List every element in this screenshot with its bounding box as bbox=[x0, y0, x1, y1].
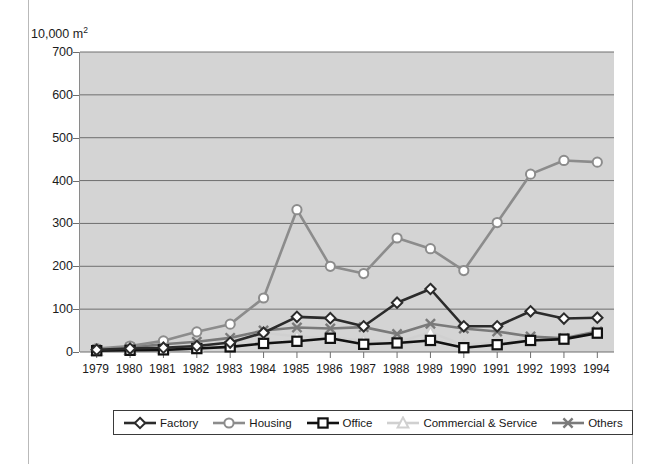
x-tick-marks bbox=[97, 352, 598, 358]
square-marker-icon bbox=[559, 335, 568, 344]
circle-marker-icon bbox=[192, 327, 201, 336]
gridlines bbox=[80, 52, 614, 352]
circle-marker-icon bbox=[526, 170, 535, 179]
y-tick-label: 200 bbox=[29, 259, 73, 273]
y-axis-unit-exponent: 2 bbox=[83, 25, 88, 35]
square-marker-icon bbox=[306, 416, 340, 430]
circle-marker-icon bbox=[292, 205, 301, 214]
legend-item-housing[interactable]: Housing bbox=[212, 416, 291, 430]
legend-label: Factory bbox=[160, 417, 198, 429]
square-marker-icon bbox=[392, 338, 401, 347]
circle-marker-icon bbox=[226, 320, 235, 329]
legend-label: Office bbox=[343, 417, 373, 429]
diamond-marker-icon bbox=[325, 313, 335, 323]
y-tick-label: 0 bbox=[29, 345, 73, 359]
circle-marker-icon bbox=[559, 156, 568, 165]
diamond-marker-icon bbox=[123, 416, 157, 430]
diamond-marker-icon bbox=[525, 306, 535, 316]
circle-marker-icon bbox=[212, 416, 246, 430]
square-marker-icon bbox=[326, 334, 335, 343]
y-tick-label: 400 bbox=[29, 174, 73, 188]
circle-marker-icon bbox=[326, 262, 335, 271]
y-tick-label: 500 bbox=[29, 131, 73, 145]
legend-item-commercial-service[interactable]: Commercial & Service bbox=[386, 416, 537, 430]
y-tick-label: 300 bbox=[29, 216, 73, 230]
triangle-marker-icon bbox=[398, 417, 409, 427]
y-tick-mark bbox=[73, 352, 79, 353]
square-marker-icon bbox=[259, 339, 268, 348]
y-axis-tick-labels: 0100200300400500600700 bbox=[27, 52, 73, 352]
cross-marker-icon bbox=[551, 416, 585, 430]
y-tick-label: 700 bbox=[29, 45, 73, 59]
legend-label: Others bbox=[588, 417, 623, 429]
legend-label: Housing bbox=[249, 417, 291, 429]
triangle-marker-icon bbox=[386, 416, 420, 430]
diamond-marker-icon bbox=[559, 313, 569, 323]
y-axis-unit-text: 10,000 m bbox=[31, 27, 83, 41]
series-line bbox=[97, 160, 598, 348]
diamond-marker-icon bbox=[135, 417, 145, 427]
series-line bbox=[97, 324, 598, 350]
square-marker-icon bbox=[426, 336, 435, 345]
circle-marker-icon bbox=[426, 244, 435, 253]
square-marker-icon bbox=[593, 329, 602, 338]
square-marker-icon bbox=[359, 340, 368, 349]
legend-item-office[interactable]: Office bbox=[306, 416, 373, 430]
diamond-marker-icon bbox=[292, 312, 302, 322]
y-axis-unit-label: 10,000 m2 bbox=[31, 27, 88, 41]
circle-marker-icon bbox=[459, 266, 468, 275]
square-marker-icon bbox=[526, 336, 535, 345]
circle-marker-icon bbox=[225, 418, 234, 427]
square-marker-icon bbox=[493, 340, 502, 349]
chart-legend: FactoryHousingOfficeCommercial & Service… bbox=[113, 410, 633, 435]
diamond-marker-icon bbox=[592, 313, 602, 323]
legend-item-factory[interactable]: Factory bbox=[123, 416, 198, 430]
square-marker-icon bbox=[292, 337, 301, 346]
chart-plot-svg bbox=[80, 52, 614, 352]
square-marker-icon bbox=[318, 418, 327, 427]
x-axis-tick-labels: 1979198019811982198319841985198619871988… bbox=[79, 362, 613, 384]
circle-marker-icon bbox=[493, 218, 502, 227]
circle-marker-icon bbox=[392, 233, 401, 242]
y-tick-label: 100 bbox=[29, 302, 73, 316]
chart-page: 10,000 m2 0100200300400500600700 1979198… bbox=[0, 0, 661, 464]
y-tick-label: 600 bbox=[29, 88, 73, 102]
legend-label: Commercial & Service bbox=[423, 417, 537, 429]
square-marker-icon bbox=[459, 343, 468, 352]
plot-area bbox=[79, 52, 614, 352]
x-tick-label: 1994 bbox=[573, 362, 619, 376]
series-housing bbox=[92, 156, 602, 353]
legend-item-others[interactable]: Others bbox=[551, 416, 623, 430]
circle-marker-icon bbox=[259, 293, 268, 302]
circle-marker-icon bbox=[593, 158, 602, 167]
circle-marker-icon bbox=[359, 269, 368, 278]
page-right-rule bbox=[632, 0, 633, 464]
